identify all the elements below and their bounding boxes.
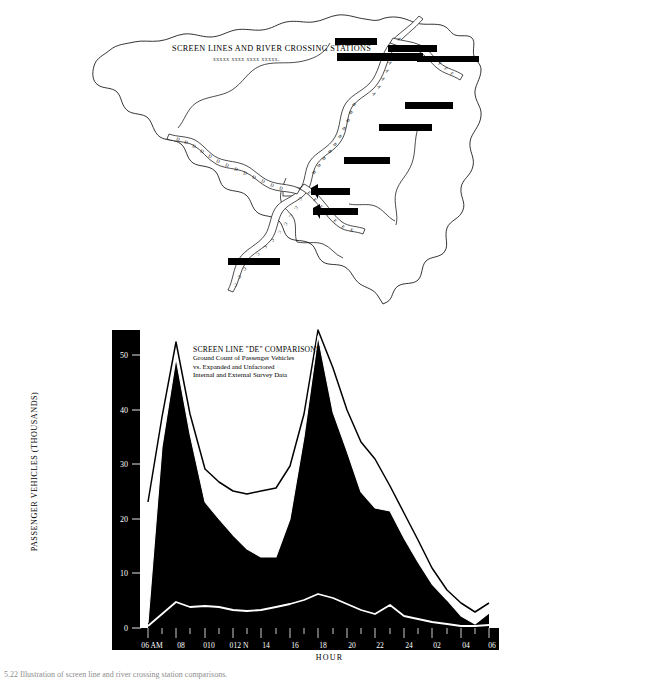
x-tick-18: 18	[319, 641, 327, 650]
station-bar-2	[388, 45, 437, 52]
station-bar-7	[344, 157, 390, 164]
x-tick-24: 24	[405, 641, 413, 650]
x-tick-16: 16	[291, 641, 299, 650]
x-tick-02: 02	[433, 641, 441, 650]
x-tick-22: 22	[376, 641, 384, 650]
y-tick-40: 40	[120, 406, 128, 415]
x-tick-14: 14	[262, 641, 270, 650]
y-tick-10: 10	[120, 569, 128, 578]
x-tick-08: 08	[177, 641, 185, 650]
y-tick-0: 0	[124, 624, 128, 633]
station-bar-10	[228, 258, 280, 265]
x-tick-20: 20	[348, 641, 356, 650]
chart-title-line-4: Internal and External Survey Data	[193, 371, 368, 379]
x-tick-010: 010	[203, 641, 215, 650]
svg-text:C: C	[277, 230, 283, 235]
station-bar-5	[405, 102, 453, 109]
figure-caption: 5.22 Illustration of screen line and riv…	[4, 670, 227, 680]
x-tick-06am: 06 AM	[141, 641, 163, 650]
station-bar-6	[379, 124, 432, 131]
chart-title-line-1: SCREEN LINE "DE" COMPARISONS	[193, 345, 368, 354]
station-bar-3	[337, 53, 423, 61]
x-tick-06: 06	[488, 641, 496, 650]
map-subtitle: xxxxx xxxx xxxx xxxxx.	[213, 56, 280, 62]
chart-title-line-3: vs. Expanded and Unfactored	[193, 363, 368, 371]
figure-page: A A A A A A A A F F F F B B	[0, 0, 659, 680]
y-axis-strip	[112, 330, 140, 632]
chart-panel: 0 10 20 30 40 50	[0, 312, 659, 662]
y-tick-20: 20	[120, 515, 128, 524]
x-axis-strip	[112, 628, 499, 650]
x-tick-04: 04	[462, 641, 470, 650]
map-panel: A A A A A A A A F F F F B B	[0, 0, 659, 310]
chart-title-block: SCREEN LINE "DE" COMPARISONS Ground Coun…	[193, 345, 368, 380]
x-axis-title: HOUR	[0, 653, 659, 662]
chart-title-line-2: Ground Count of Passenger Vehicles	[193, 354, 368, 362]
map-title: SCREEN LINES AND RIVER CROSSING STATIONS	[172, 44, 371, 53]
x-tick-012n: 012 N	[230, 641, 249, 650]
station-bar-4	[417, 56, 479, 62]
y-axis-title: PASSENGER VEHICLES (THOUSANDS)	[30, 377, 39, 567]
y-tick-30: 30	[120, 460, 128, 469]
y-tick-50: 50	[120, 351, 128, 360]
